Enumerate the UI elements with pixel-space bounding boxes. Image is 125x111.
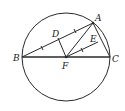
segment-fa xyxy=(66,23,93,57)
point-a xyxy=(92,22,94,24)
label-c: C xyxy=(112,54,119,64)
label-e: E xyxy=(89,34,97,44)
label-a: A xyxy=(94,13,102,23)
label-f: F xyxy=(61,61,69,71)
label-b: B xyxy=(12,53,20,63)
label-d: D xyxy=(51,29,59,39)
segment-fd xyxy=(58,38,66,57)
point-f xyxy=(65,56,68,59)
geometry-figure: A B C D E F xyxy=(0,0,125,111)
